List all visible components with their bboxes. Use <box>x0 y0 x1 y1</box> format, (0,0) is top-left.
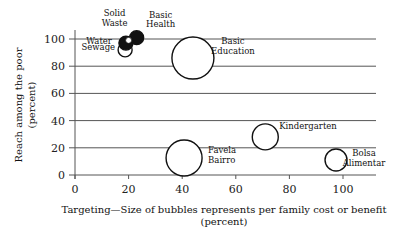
bubble-chart: 020406080100 020406080100 BasicHealthWat… <box>0 0 401 230</box>
y-tick-label: 40 <box>51 115 65 128</box>
bubble-basic-education <box>172 37 214 79</box>
y-tick-label: 100 <box>44 33 65 46</box>
bubble-labels: BasicHealthWaterSolidWasteSewageBasicEdu… <box>81 8 386 167</box>
x-axis-title: Targeting—Size of bubbles represents per… <box>62 204 387 215</box>
bubble-label: FavelaBairro <box>208 145 236 165</box>
y-tick-label: 20 <box>51 142 65 155</box>
bubble-label: Sewage <box>81 42 115 52</box>
x-tick-label: 60 <box>229 183 243 196</box>
bubble-label: BolsaAlimentar <box>342 148 387 168</box>
x-tick-label: 40 <box>175 183 189 196</box>
x-tick-label: 80 <box>282 183 296 196</box>
bubble-label: Kindergarten <box>279 121 337 131</box>
y-tick-label: 80 <box>51 60 65 73</box>
x-tick-label: 100 <box>333 183 354 196</box>
y-tick-label: 60 <box>51 87 65 100</box>
y-axis-unit: (percent) <box>26 81 37 128</box>
x-axis-ticks: 020406080100 <box>72 175 354 196</box>
y-axis-title: Reach among the poor <box>13 47 24 162</box>
y-tick-label: 0 <box>58 169 65 182</box>
x-tick-label: 20 <box>122 183 136 196</box>
bubble-solid-waste <box>126 37 132 43</box>
x-tick-label: 0 <box>72 183 79 196</box>
bubble-kindergarten <box>252 124 278 150</box>
bubble-label: BasicHealth <box>146 10 176 30</box>
bubble-favela-bairro <box>166 140 202 176</box>
x-axis-unit: (percent) <box>201 216 248 227</box>
bubble-label: SolidWaste <box>102 8 128 28</box>
y-axis-ticks: 020406080100 <box>44 33 65 182</box>
